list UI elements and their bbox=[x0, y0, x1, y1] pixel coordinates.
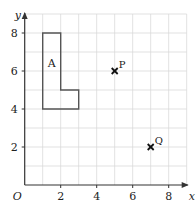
x-tick-label: 2 bbox=[57, 190, 64, 203]
x-tick-label: 4 bbox=[93, 190, 100, 203]
point-p: P bbox=[112, 59, 126, 74]
y-tick-label: 8 bbox=[11, 27, 18, 40]
point-label: Q bbox=[155, 135, 163, 146]
shape-label: A bbox=[47, 57, 57, 70]
y-tick-label: 2 bbox=[11, 141, 18, 154]
axes bbox=[22, 12, 189, 188]
x-tick-label: 6 bbox=[129, 190, 136, 203]
x-axis-label: x bbox=[189, 190, 196, 203]
grid bbox=[25, 14, 187, 185]
ticks: 24682468 bbox=[11, 27, 173, 203]
y-axis-arrow-icon bbox=[22, 12, 28, 19]
y-tick-label: 4 bbox=[11, 103, 18, 116]
origin-label: O bbox=[13, 190, 22, 203]
point-label: P bbox=[119, 59, 126, 70]
y-tick-label: 6 bbox=[11, 65, 18, 78]
coordinate-grid-diagram: 24682468 A PQ O x y bbox=[0, 0, 196, 208]
x-tick-label: 8 bbox=[165, 190, 172, 203]
points: PQ bbox=[112, 59, 163, 150]
point-q: Q bbox=[148, 135, 163, 150]
y-axis-label: y bbox=[14, 9, 22, 22]
x-axis-arrow-icon bbox=[182, 182, 189, 188]
